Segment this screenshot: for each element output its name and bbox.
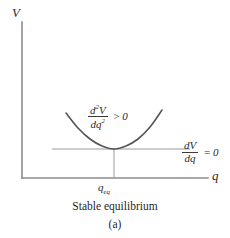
first-derivative-label: dV dq = 0 xyxy=(182,140,218,164)
second-derivative-numerator: d2V xyxy=(88,103,108,117)
first-derivative-denominator-var: q xyxy=(190,152,196,164)
first-derivative-relation-group: = 0 xyxy=(201,147,218,158)
first-derivative-value: 0 xyxy=(213,146,219,158)
second-derivative-fraction: d2V dq2 xyxy=(88,103,108,130)
y-axis-label: V xyxy=(12,6,20,19)
figure-sublabel: (a) xyxy=(0,218,230,230)
second-derivative-value: 0 xyxy=(122,110,128,122)
x-axis-label: q xyxy=(212,169,219,182)
second-derivative-label: d2V dq2 > 0 xyxy=(88,103,128,130)
second-derivative-denominator: dq2 xyxy=(88,117,108,130)
potential-energy-figure: V q d2V dq2 > 0 dV dq = 0 qeq Stable equ… xyxy=(0,0,230,238)
first-derivative-numerator-var: V xyxy=(190,139,197,151)
first-derivative-fraction: dV dq xyxy=(182,140,198,164)
second-derivative-denominator-exponent: 2 xyxy=(102,117,105,124)
first-derivative-denominator: dq xyxy=(182,153,198,165)
equilibrium-point-subscript: eq xyxy=(104,188,110,195)
figure-caption: Stable equilibrium xyxy=(0,200,230,212)
second-derivative-relation: > xyxy=(113,110,119,122)
second-derivative-relation-group: > 0 xyxy=(110,111,127,122)
equilibrium-point-label: qeq xyxy=(98,182,110,196)
second-derivative-numerator-var: V xyxy=(99,104,106,116)
first-derivative-relation: = xyxy=(204,146,210,158)
